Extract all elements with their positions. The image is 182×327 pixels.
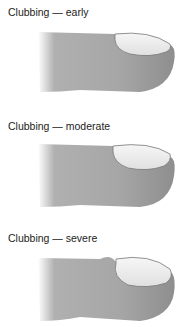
panel-moderate: Clubbing — moderate xyxy=(0,108,182,216)
panel-early: Clubbing — early xyxy=(0,0,182,108)
finger-early-illustration xyxy=(0,0,182,108)
finger-severe-illustration xyxy=(0,217,182,327)
panel-severe: Clubbing — severe xyxy=(0,217,182,325)
finger-moderate-illustration xyxy=(0,108,182,216)
